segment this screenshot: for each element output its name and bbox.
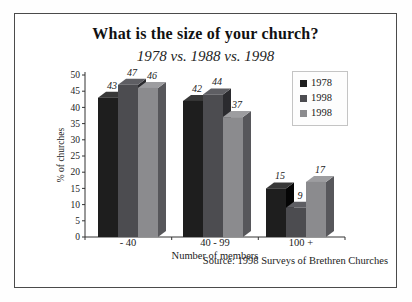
y-axis-tick-label: 25 [71,151,81,161]
y-axis-tick-label: 45 [71,86,81,96]
bar-1998-- 40 [138,88,158,237]
y-axis-tick-label: 15 [71,184,81,194]
y-axis-tick-label: 20 [71,167,81,177]
source-note: Source: 1998 Surveys of Brethren Churche… [203,255,388,266]
bar-value-label: 15 [275,170,285,181]
y-axis-tick-label: 50 [71,70,81,80]
bar-value-label: 42 [192,83,202,94]
bar-side-1998-1 [243,111,251,237]
bar-1998-- 40 [118,85,138,237]
bar-1998-40 - 99 [203,94,223,237]
bar-1978-- 40 [98,98,118,237]
legend-swatch-1998b [300,110,307,117]
y-axis-tick-label: 35 [71,119,81,129]
bar-side-1998-0 [158,82,166,237]
bar-value-label: 46 [147,70,157,81]
page: What is the size of your church? 1978 vs… [0,0,412,302]
bar-1978-100 + [266,188,286,237]
category-label-under40: - 40 [120,237,137,248]
legend: 1978 1998 1998 [292,71,348,126]
bar-value-label: 9 [298,190,303,201]
y-axis-tick-label: 40 [71,103,81,113]
bar-1998-100 + [286,208,306,237]
bar-value-label: 44 [212,76,222,87]
bar-1978-40 - 99 [183,101,203,237]
category-label-100plus: 100 + [289,237,313,248]
category-label-40-99: 40 - 99 [200,237,230,248]
legend-item-1998a: 1998 [300,91,347,106]
bar-value-label: 47 [127,67,138,78]
bar-value-label: 43 [107,80,117,91]
bar-value-label: 37 [231,99,243,110]
legend-item-1978: 1978 [300,76,347,91]
y-axis-title: % of churches [56,115,68,195]
legend-swatch-1998a [300,95,307,102]
y-axis-tick-label: 10 [71,200,81,210]
legend-item-1998b: 1998 [300,106,347,121]
bar-value-label: 17 [315,164,326,175]
bar-side-1998-2 [326,176,334,237]
legend-swatch-1978 [300,80,307,87]
legend-label-1998a: 1998 [311,93,332,104]
bar-1998-40 - 99 [223,117,243,237]
y-axis-tick-label: 5 [75,216,80,226]
y-axis-tick-label: 0 [75,232,80,242]
legend-label-1998b: 1998 [311,108,332,119]
y-axis-tick-label: 30 [71,135,81,145]
bar-1998-100 + [306,182,326,237]
legend-label-1978: 1978 [311,78,332,89]
